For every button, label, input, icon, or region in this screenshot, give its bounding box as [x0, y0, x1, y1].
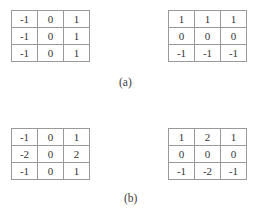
- panel-caption-a: (a): [119, 76, 132, 88]
- matrix-cell: 0: [38, 28, 64, 45]
- matrix-cell: 1: [64, 28, 90, 45]
- matrix-cell: -1: [12, 11, 38, 28]
- matrix-cell: 0: [38, 129, 64, 146]
- matrix-cell: 0: [38, 146, 64, 163]
- table-row: -1 0 1: [12, 28, 90, 45]
- matrix-cell: 2: [64, 146, 90, 163]
- matrix-cell: -1: [12, 129, 38, 146]
- table-row: -1 0 1: [12, 45, 90, 62]
- matrix-cell: 1: [221, 129, 247, 146]
- figure-root: -1 0 1 -1 0 1 -1 0 1 1: [0, 0, 267, 218]
- matrix-cell: 0: [221, 146, 247, 163]
- matrix-cell: 1: [169, 129, 195, 146]
- table-row: 1 1 1: [169, 11, 247, 28]
- matrix-cell: 0: [38, 11, 64, 28]
- matrix-cell: 0: [195, 28, 221, 45]
- matrix-cell: -1: [12, 163, 38, 180]
- table-row: 0 0 0: [169, 28, 247, 45]
- kernel-matrix-a-left: -1 0 1 -1 0 1 -1 0 1: [11, 10, 90, 62]
- matrix-cell: -1: [221, 45, 247, 62]
- matrix-cell: 0: [169, 28, 195, 45]
- kernel-table: 1 2 1 0 0 0 -1 -2 -1: [168, 128, 247, 180]
- matrix-cell: -1: [12, 45, 38, 62]
- table-row: -1 0 1: [12, 129, 90, 146]
- matrix-cell: -2: [12, 146, 38, 163]
- table-row: 0 0 0: [169, 146, 247, 163]
- matrix-cell: 0: [169, 146, 195, 163]
- matrix-cell: -1: [221, 163, 247, 180]
- kernel-matrix-a-right: 1 1 1 0 0 0 -1 -1 -1: [168, 10, 247, 62]
- table-row: -2 0 2: [12, 146, 90, 163]
- matrix-cell: 0: [221, 28, 247, 45]
- matrix-cell: -2: [195, 163, 221, 180]
- matrix-cell: 2: [195, 129, 221, 146]
- kernel-table: 1 1 1 0 0 0 -1 -1 -1: [168, 10, 247, 62]
- kernel-table: -1 0 1 -2 0 2 -1 0 1: [11, 128, 90, 180]
- table-row: -1 0 1: [12, 11, 90, 28]
- matrix-cell: 1: [195, 11, 221, 28]
- matrix-cell: 0: [38, 163, 64, 180]
- matrix-cell: -1: [169, 163, 195, 180]
- kernel-table: -1 0 1 -1 0 1 -1 0 1: [11, 10, 90, 62]
- matrix-cell: -1: [195, 45, 221, 62]
- matrix-cell: 1: [64, 45, 90, 62]
- matrix-cell: 1: [64, 129, 90, 146]
- matrix-cell: 1: [64, 163, 90, 180]
- kernel-matrix-b-right: 1 2 1 0 0 0 -1 -2 -1: [168, 128, 247, 180]
- matrix-cell: 1: [64, 11, 90, 28]
- matrix-cell: -1: [169, 45, 195, 62]
- table-row: 1 2 1: [169, 129, 247, 146]
- matrix-cell: 0: [38, 45, 64, 62]
- panel-caption-b: (b): [124, 192, 137, 204]
- matrix-cell: -1: [12, 28, 38, 45]
- table-row: -1 -2 -1: [169, 163, 247, 180]
- matrix-cell: 1: [169, 11, 195, 28]
- table-row: -1 0 1: [12, 163, 90, 180]
- kernel-matrix-b-left: -1 0 1 -2 0 2 -1 0 1: [11, 128, 90, 180]
- matrix-cell: 0: [195, 146, 221, 163]
- table-row: -1 -1 -1: [169, 45, 247, 62]
- matrix-cell: 1: [221, 11, 247, 28]
